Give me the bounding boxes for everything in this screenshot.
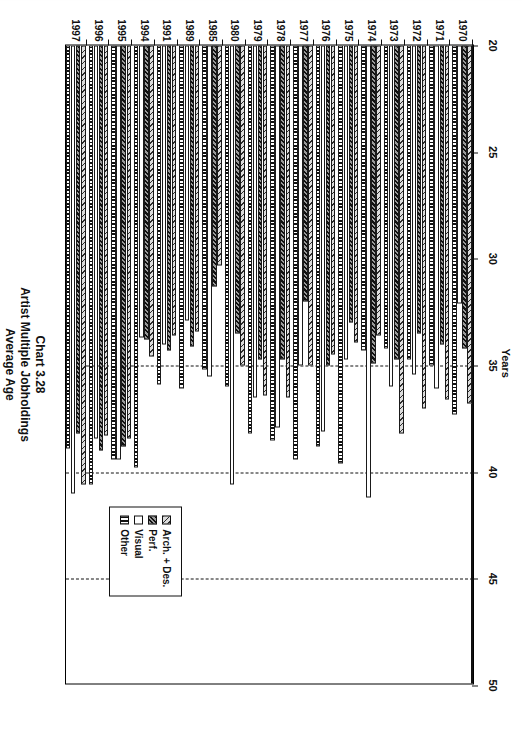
bar-1978-visual (275, 45, 279, 427)
bar-1970-visual (457, 45, 461, 303)
bar-1985-perf (212, 45, 216, 286)
bar-1978-arch-des (286, 45, 290, 397)
bar-1991-visual (162, 45, 166, 344)
bar-1972-visual (412, 45, 416, 374)
category-label-1972: 1972 (411, 5, 422, 41)
rotated-figure-wrapper: Chart 3.28 Artist Multiple Jobholdings A… (0, 0, 522, 729)
chart-figure: Chart 3.28 Artist Multiple Jobholdings A… (0, 0, 522, 729)
x-tick-label-45: 45 (487, 572, 499, 584)
category-tick (313, 39, 314, 45)
legend-swatch-icon (134, 515, 143, 524)
legend-item-other: Other (119, 515, 130, 587)
bar-1989-arch-des (195, 45, 199, 331)
bar-1978-other (270, 45, 274, 440)
bar-1974-arch-des (376, 45, 380, 335)
category-label-1985: 1985 (207, 5, 218, 41)
bar-1972-arch-des (422, 45, 426, 408)
category-tick (427, 39, 428, 45)
category-label-1970: 1970 (457, 5, 468, 41)
bar-1989-other (179, 45, 183, 388)
chart-page: Chart 3.28 Artist Multiple Jobholdings A… (0, 0, 522, 729)
bar-group: 1973 (382, 45, 405, 683)
bar-1985-arch-des (217, 45, 221, 265)
x-tick-label-25: 25 (487, 146, 499, 158)
bar-1997-perf (76, 45, 80, 433)
bar-1995-other (111, 45, 115, 459)
x-axis-title: Years (500, 348, 512, 377)
bar-group: 1976 (314, 45, 337, 683)
category-tick (131, 39, 132, 45)
category-label-1996: 1996 (93, 5, 104, 41)
bar-1995-perf (121, 45, 125, 446)
category-tick (86, 39, 87, 45)
bar-group: 1979 (246, 45, 269, 683)
bar-1994-arch-des (149, 45, 153, 356)
category-label-1974: 1974 (366, 5, 377, 41)
legend-swatch-icon (162, 515, 171, 524)
bar-1980-other (225, 45, 229, 386)
legend-item-arch-des: Arch. + Des. (161, 515, 172, 587)
bar-1979-perf (258, 45, 262, 359)
x-tick-50 (472, 685, 478, 686)
chart-title-line3: Average Age (2, 274, 17, 454)
chart-title-line2: Artist Multiple Jobholdings (17, 274, 32, 454)
category-label-1995: 1995 (116, 5, 127, 41)
bar-1979-visual (253, 45, 257, 397)
category-tick (336, 39, 337, 45)
bar-1977-arch-des (308, 45, 312, 365)
bar-group: 1978 (269, 45, 292, 683)
legend-label: Arch. + Des. (161, 529, 172, 587)
legend-swatch-icon (120, 515, 129, 524)
bar-1975-visual (344, 45, 348, 359)
bar-1974-visual (366, 45, 370, 497)
bar-1974-other (361, 45, 365, 350)
bar-1996-visual (94, 45, 98, 438)
bar-1989-visual (185, 45, 189, 320)
category-tick (177, 39, 178, 45)
category-tick (108, 39, 109, 45)
legend-item-visual: Visual (133, 515, 144, 587)
category-tick (381, 39, 382, 45)
bar-1973-arch-des (399, 45, 403, 433)
chart-title-line1: Chart 3.28 (32, 274, 47, 454)
bar-1977-other (293, 45, 297, 459)
bar-1979-arch-des (263, 45, 267, 395)
bar-1994-perf (144, 45, 148, 339)
category-label-1997: 1997 (70, 5, 81, 41)
category-label-1976: 1976 (320, 5, 331, 41)
legend-label: Visual (133, 529, 144, 558)
bar-1995-arch-des (127, 45, 131, 438)
bar-1972-perf (417, 45, 421, 333)
category-tick (268, 39, 269, 45)
bar-1979-other (248, 45, 252, 433)
legend-swatch-icon (148, 515, 157, 524)
category-label-1989: 1989 (184, 5, 195, 41)
bar-1997-visual (71, 45, 75, 493)
category-tick (222, 39, 223, 45)
bar-1977-visual (298, 45, 302, 365)
legend-label: Other (119, 529, 130, 556)
bar-1971-arch-des (445, 45, 449, 399)
bar-group: 1977 (291, 45, 314, 683)
bar-1974-perf (371, 45, 375, 363)
category-tick (290, 39, 291, 45)
bar-1973-other (384, 45, 388, 348)
bar-1976-visual (321, 45, 325, 431)
bar-1989-perf (190, 45, 194, 346)
bar-1971-other (429, 45, 433, 365)
bar-group: 1997 (64, 45, 87, 683)
chart-title: Chart 3.28 Artist Multiple Jobholdings A… (2, 274, 47, 454)
x-tick-label-40: 40 (487, 466, 499, 478)
bar-1995-visual (116, 45, 120, 459)
bar-1976-perf (326, 45, 330, 365)
category-tick (199, 39, 200, 45)
bar-group: 1971 (428, 45, 451, 683)
category-label-1977: 1977 (298, 5, 309, 41)
bar-1971-visual (434, 45, 438, 388)
bar-group: 1972 (405, 45, 428, 683)
plot-area: 20253035404550 1970197119721973197419751… (65, 44, 474, 684)
chart-legend: Arch. + Des.Perf.VisualOther (109, 506, 182, 596)
category-label-1979: 1979 (252, 5, 263, 41)
bar-1970-other (452, 45, 456, 414)
bar-1976-arch-des (331, 45, 335, 354)
